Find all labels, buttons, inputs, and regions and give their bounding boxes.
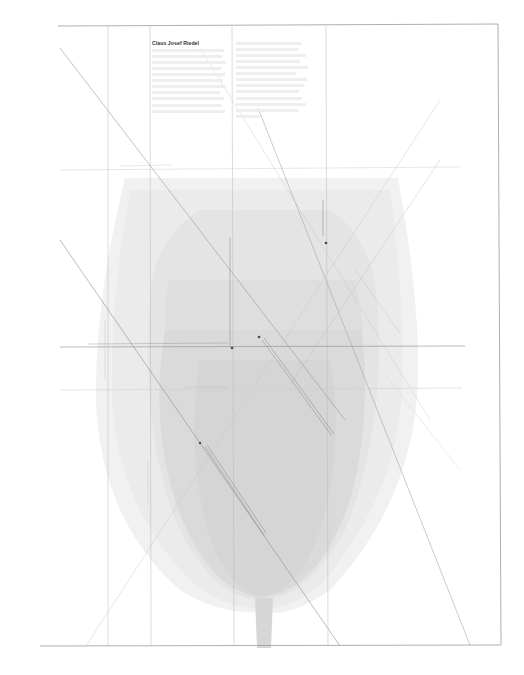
body-text-column-left [152,47,228,114]
marker-dot [258,336,261,339]
riedel-glass-poster: Claus Josef Riedel [0,0,524,675]
marker-dot [199,442,201,444]
body-text-column-right [236,40,316,119]
glass-silhouette-group [96,178,418,648]
glass-bowl-rim [165,280,362,330]
poster-title: Claus Josef Riedel [152,40,199,46]
glass-stem [255,598,273,648]
marker-dot [325,242,328,245]
marker-dot [231,347,234,350]
